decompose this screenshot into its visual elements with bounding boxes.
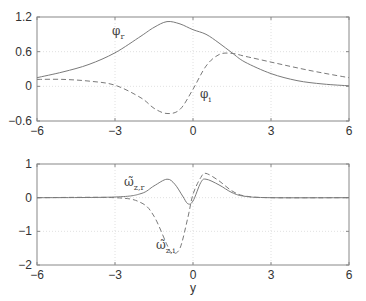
- top-plot-phi: −6−3036−0.600.61.2φrφi: [8, 10, 352, 138]
- x-tick-label: 0: [190, 268, 197, 282]
- x-tick-label: 0: [190, 124, 197, 138]
- x-tick-label: −3: [108, 124, 122, 138]
- x-tick-label: −3: [108, 268, 122, 282]
- x-tick-label: 3: [268, 124, 275, 138]
- series-label: ω̃z,r: [124, 175, 145, 192]
- y-tick-label: 1: [25, 157, 32, 171]
- y-tick-label: 1.2: [15, 10, 32, 24]
- series-label: φi: [200, 87, 211, 104]
- x-tick-label: 3: [268, 268, 275, 282]
- x-tick-label: 6: [346, 268, 353, 282]
- y-tick-label: −2: [18, 258, 32, 272]
- y-tick-label: −1: [18, 224, 32, 238]
- x-tick-label: 6: [346, 124, 353, 138]
- bottom-plot-omega: −6−3036−2−101ω̃z,rω̃z,i: [18, 157, 352, 282]
- figure: −6−3036−0.600.61.2φrφi −6−3036−2−101ω̃z,…: [0, 0, 366, 301]
- series-label: φr: [112, 24, 124, 41]
- y-tick-label: 0.6: [15, 45, 32, 59]
- x-tick-label: −6: [30, 268, 44, 282]
- x-axis-label: y: [190, 281, 196, 295]
- y-tick-label: 0: [25, 191, 32, 205]
- series-label: ω̃z,i: [156, 238, 176, 255]
- x-tick-label: −6: [30, 124, 44, 138]
- y-tick-label: 0: [25, 79, 32, 93]
- y-tick-label: −0.6: [8, 114, 32, 128]
